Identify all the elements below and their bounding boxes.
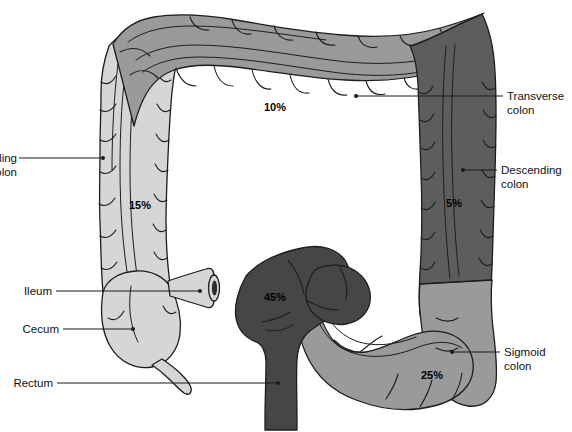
colon-diagram-page: Ascending colon Ileum Cecum Rectum Trans…	[0, 0, 572, 432]
transverse-colon-anchor-dot	[354, 94, 358, 98]
rectum-label-line1: Rectum	[13, 377, 53, 389]
ascending-colon-label-line2: colon	[0, 166, 17, 178]
sigmoid-colon-label-line2: colon	[504, 360, 532, 372]
percent-transverse-colon: 10%	[264, 101, 286, 113]
label-rectum: Rectum	[13, 377, 280, 389]
percent-rectum: 45%	[264, 291, 286, 303]
percent-ascending-colon: 15%	[129, 199, 151, 211]
ascending-colon-anchor-dot	[101, 156, 105, 160]
ascending-colon-label-line1: Ascending	[0, 152, 17, 164]
colon-anatomy-figure: Ascending colon Ileum Cecum Rectum Trans…	[0, 0, 572, 432]
ileum-label-line1: Ileum	[24, 285, 52, 297]
descending-colon-anchor-dot	[461, 168, 465, 172]
percent-descending-colon: 5%	[446, 197, 462, 209]
appendix-shape	[152, 359, 191, 394]
descending-colon-label-line2: colon	[501, 178, 529, 190]
ileum-anchor-dot	[198, 289, 202, 293]
sigmoid-colon-anchor-dot	[450, 350, 454, 354]
sigmoid-colon-label-line1: Sigmoid	[504, 346, 546, 358]
rectum-anchor-dot	[276, 381, 280, 385]
label-ascending-colon: Ascending colon	[0, 152, 105, 178]
cecum-label-line1: Cecum	[23, 323, 59, 335]
transverse-colon-label-line2: colon	[507, 104, 535, 116]
percent-sigmoid-colon: 25%	[421, 369, 443, 381]
descending-colon-label-line1: Descending	[501, 164, 562, 176]
transverse-colon-label-line1: Transverse	[507, 90, 564, 102]
cecum-anchor-dot	[131, 327, 135, 331]
